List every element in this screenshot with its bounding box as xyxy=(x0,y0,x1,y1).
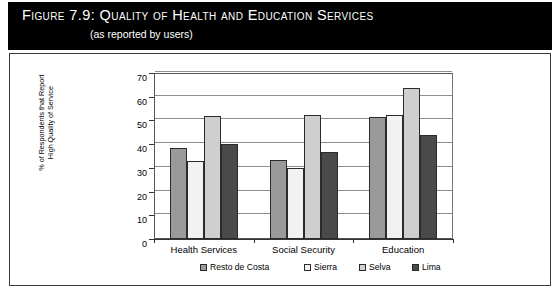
bar[interactable] xyxy=(187,161,204,239)
legend-label: Resto de Costa xyxy=(210,262,269,272)
gridline xyxy=(155,71,452,72)
legend-swatch-icon xyxy=(200,264,207,271)
bar[interactable] xyxy=(304,115,321,240)
bar[interactable] xyxy=(369,117,386,239)
figure-number: Figure 7.9: xyxy=(22,7,95,23)
x-axis-label: Social Security xyxy=(272,244,335,255)
legend-item[interactable]: Selva xyxy=(359,262,391,272)
legend-item[interactable]: Resto de Costa xyxy=(200,262,269,272)
x-axis-label: Education xyxy=(382,244,424,255)
chart-legend: Resto de CostaSierraSelvaLima xyxy=(154,262,454,276)
bar[interactable] xyxy=(221,144,238,239)
x-axis-label: Health Services xyxy=(171,244,238,255)
bar[interactable] xyxy=(170,148,187,239)
legend-label: Sierra xyxy=(314,262,337,272)
legend-label: Selva xyxy=(369,262,391,272)
bar[interactable] xyxy=(321,152,338,239)
y-axis-title: % of Respondents that Report High Qualit… xyxy=(38,48,55,198)
bar[interactable] xyxy=(287,168,304,239)
legend-label: Lima xyxy=(422,262,441,272)
figure-content-frame: % of Respondents that Report High Qualit… xyxy=(9,53,551,286)
legend-item[interactable]: Lima xyxy=(412,262,441,272)
bars-layer xyxy=(154,73,453,239)
bar-group xyxy=(270,73,338,239)
x-axis-line xyxy=(154,239,454,240)
bar-group xyxy=(170,73,238,239)
legend-swatch-icon xyxy=(359,264,366,271)
bar[interactable] xyxy=(386,115,403,240)
figure-subtitle: (as reported by users) xyxy=(90,28,193,40)
figure-title: Quality of Health and Education Services xyxy=(100,7,374,23)
bar[interactable] xyxy=(270,160,287,239)
legend-swatch-icon xyxy=(304,264,311,271)
y-axis-ticks: 010203040506070 xyxy=(128,73,154,239)
figure-title-banner: Figure 7.9: Quality of Health and Educat… xyxy=(8,2,552,50)
x-tick-mark xyxy=(453,239,454,243)
figure-page: Figure 7.9: Quality of Health and Educat… xyxy=(0,0,560,293)
bar[interactable] xyxy=(403,88,420,239)
x-tick-mark xyxy=(353,239,354,243)
bar[interactable] xyxy=(420,135,437,239)
x-tick-mark xyxy=(154,239,155,243)
bar-group xyxy=(369,73,437,239)
bar[interactable] xyxy=(204,116,221,239)
bar-chart: % of Respondents that Report High Qualit… xyxy=(10,54,552,287)
legend-swatch-icon xyxy=(412,264,419,271)
legend-item[interactable]: Sierra xyxy=(304,262,337,272)
figure-title-line: Figure 7.9: Quality of Health and Educat… xyxy=(22,7,374,23)
x-tick-mark xyxy=(254,239,255,243)
